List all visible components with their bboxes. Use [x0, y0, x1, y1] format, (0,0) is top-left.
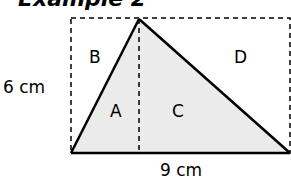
triangle-diagram: B A C D 6 cm 9 cm: [0, 0, 291, 184]
label-base: 9 cm: [160, 160, 202, 180]
label-region-c: C: [172, 101, 184, 121]
label-region-b: B: [89, 47, 101, 67]
label-region-a: A: [110, 101, 122, 121]
label-region-d: D: [234, 47, 247, 67]
label-height: 6 cm: [3, 77, 45, 97]
